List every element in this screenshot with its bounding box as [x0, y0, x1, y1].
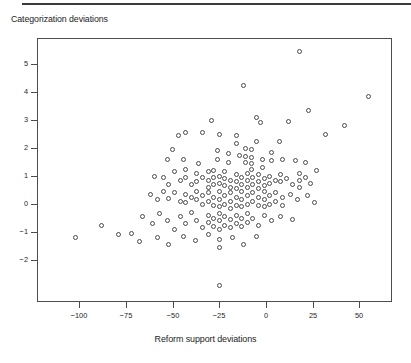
scatter-point: [262, 204, 267, 209]
scatter-point: [129, 231, 134, 236]
scatter-point: [183, 130, 188, 135]
scatter-point: [245, 185, 250, 190]
scatter-point: [211, 216, 216, 221]
scatter-point: [243, 154, 248, 159]
scatter-point: [222, 214, 227, 219]
scatter-point: [256, 195, 261, 200]
scatter-point: [228, 206, 233, 211]
scatter-point: [206, 232, 211, 237]
scatter-point: [243, 160, 248, 165]
scatter-point: [256, 179, 261, 184]
scatter-point: [194, 189, 199, 194]
scatter-point: [280, 195, 285, 200]
scatter-point: [183, 192, 188, 197]
scatter-point: [290, 217, 295, 222]
x-axis-tick: [266, 302, 267, 308]
scatter-point: [239, 204, 244, 209]
scatter-point: [308, 181, 313, 186]
scatter-point: [239, 224, 244, 229]
scatter-point: [288, 192, 293, 197]
scatter-point: [183, 167, 188, 172]
scatter-point: [234, 221, 239, 226]
scatter-point: [278, 179, 283, 184]
scatter-point: [222, 193, 227, 198]
x-axis-tick-label: −50: [154, 311, 191, 320]
scatter-point: [228, 185, 233, 190]
scatter-point: [217, 174, 222, 179]
scatter-point: [267, 181, 272, 186]
scatter-point: [234, 172, 239, 177]
x-axis-tick-label: 0: [248, 311, 285, 320]
scatter-point: [237, 153, 242, 158]
page-top-rule: [22, 3, 411, 5]
scatter-point: [323, 132, 328, 137]
scatter-point: [217, 283, 222, 288]
page-title: Categorization deviations: [11, 13, 108, 24]
scatter-point: [194, 179, 199, 184]
scatter-point: [155, 197, 160, 202]
scatter-point: [262, 176, 267, 181]
scatter-point: [211, 182, 216, 187]
x-axis-tick: [173, 302, 174, 308]
scatter-point: [193, 238, 198, 243]
scatter-point: [209, 118, 214, 123]
scatter-point: [277, 139, 282, 144]
y-axis-tick-label: 4: [0, 87, 28, 96]
scatter-point: [215, 157, 220, 162]
scatter-point: [273, 190, 278, 195]
x-axis-tick: [313, 302, 314, 308]
scatter-point: [211, 203, 216, 208]
scatter-point: [239, 216, 244, 221]
scatter-point: [234, 213, 239, 218]
scatter-point: [297, 178, 302, 183]
x-axis-tick-label: −75: [108, 311, 145, 320]
scatter-point: [297, 185, 302, 190]
scatter-point: [166, 196, 171, 201]
scatter-point: [241, 83, 246, 88]
scatter-point: [250, 199, 255, 204]
scatter-point: [161, 175, 166, 180]
scatter-point: [194, 197, 199, 202]
scatter-point: [234, 186, 239, 191]
scatter-point: [305, 193, 310, 198]
scatter-point: [256, 223, 261, 228]
scatter-point: [273, 178, 278, 183]
scatter-point: [206, 220, 211, 225]
scatter-point: [228, 217, 233, 222]
scatter-point: [278, 172, 283, 177]
scatter-point: [222, 202, 227, 207]
scatter-point: [366, 94, 371, 99]
scatter-point: [176, 133, 181, 138]
scatter-point: [250, 216, 255, 221]
scatter-point: [170, 147, 175, 152]
scatter-point: [258, 120, 263, 125]
scatter-point: [256, 186, 261, 191]
scatter-point: [189, 182, 194, 187]
scatter-point: [269, 218, 274, 223]
scatter-point: [303, 175, 308, 180]
scatter-point: [211, 195, 216, 200]
y-axis-tick-label: 3: [0, 115, 28, 124]
scatter-point: [273, 199, 278, 204]
scatter-point: [200, 225, 205, 230]
scatter-point: [284, 176, 289, 181]
scatter-point: [278, 214, 283, 219]
scatter-points-layer: [37, 38, 392, 302]
scatter-point: [243, 146, 248, 151]
scatter-point: [260, 165, 265, 170]
scatter-point: [241, 242, 246, 247]
scatter-point: [183, 200, 188, 205]
scatter-point: [230, 235, 235, 240]
scatter-point: [286, 119, 291, 124]
scatter-point: [166, 182, 171, 187]
scatter-point: [211, 224, 216, 229]
scatter-point: [234, 195, 239, 200]
scatter-point: [249, 167, 254, 172]
scatter-point: [137, 239, 142, 244]
scatter-point: [211, 168, 216, 173]
scatter-point: [342, 123, 347, 128]
scatter-point: [228, 225, 233, 230]
y-axis-tick-label: −1: [0, 227, 28, 236]
scatter-point: [306, 108, 311, 113]
scatter-point: [181, 157, 186, 162]
